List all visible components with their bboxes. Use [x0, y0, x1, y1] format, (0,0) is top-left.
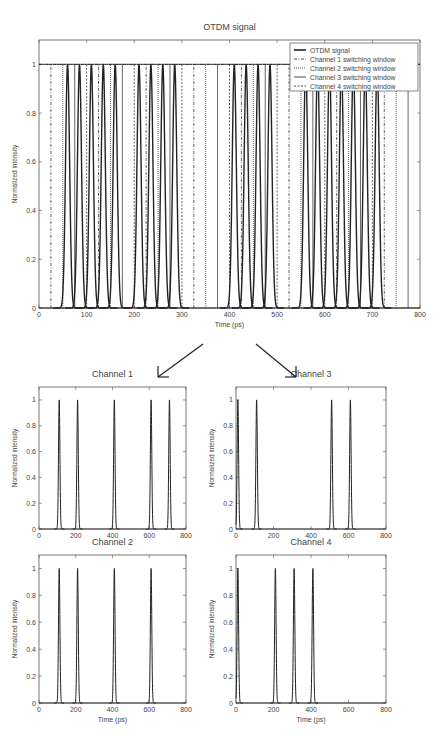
- x-tick-label: 200: [268, 532, 280, 539]
- y-tick-label: 0.6: [26, 158, 36, 165]
- y-tick-label: 0: [32, 700, 36, 707]
- legend-entry: Channel 2 switching window: [310, 65, 395, 73]
- y-tick-label: 0.6: [223, 619, 233, 626]
- y-tick-label: 0.4: [223, 474, 233, 481]
- legend-entry: Channel 3 switching window: [310, 74, 395, 82]
- y-tick-label: 0.2: [26, 500, 36, 507]
- chart-title: Channel 3: [290, 369, 331, 379]
- x-tick-label: 100: [81, 311, 93, 318]
- chart-title: Channel 2: [92, 537, 133, 547]
- y-tick-label: 0: [32, 305, 36, 312]
- y-tick-label: 0.8: [26, 422, 36, 429]
- arrow-to-channel-1: [158, 344, 203, 377]
- figure-canvas: OTDM signal010020030040050060070080000.2…: [0, 0, 436, 735]
- x-tick-label: 800: [414, 311, 426, 318]
- x-tick-label: 600: [143, 532, 155, 539]
- y-axis-label: Normalized intensity: [11, 599, 19, 658]
- x-axis-label: Time (ps): [296, 716, 325, 724]
- y-tick-label: 0.2: [223, 673, 233, 680]
- y-tick-label: 0.2: [26, 673, 36, 680]
- y-tick-label: 0: [229, 526, 233, 533]
- x-axis-label: Time (ps): [215, 321, 244, 329]
- y-tick-label: 0.4: [26, 207, 36, 214]
- plot-area: [39, 387, 186, 529]
- x-tick-label: 400: [107, 706, 119, 713]
- plot-area: [236, 387, 386, 529]
- y-tick-label: 1: [32, 61, 36, 68]
- x-tick-label: 200: [70, 706, 82, 713]
- y-tick-label: 0.6: [26, 619, 36, 626]
- y-tick-label: 0.8: [26, 592, 36, 599]
- x-tick-label: 800: [380, 706, 392, 713]
- y-tick-label: 0.6: [223, 448, 233, 455]
- chart-ch4: Channel 4020040060080000.20.40.60.81Time…: [208, 537, 392, 724]
- y-tick-label: 0.8: [26, 110, 36, 117]
- legend-entry: Channel 1 switching window: [310, 56, 395, 64]
- chart-main: OTDM signal010020030040050060070080000.2…: [11, 22, 426, 329]
- chart-ch3: Channel 3020040060080000.20.40.60.81Norm…: [208, 369, 392, 539]
- x-tick-label: 0: [37, 532, 41, 539]
- chart-title: Channel 4: [290, 537, 331, 547]
- y-tick-label: 0.4: [26, 646, 36, 653]
- x-tick-label: 0: [234, 706, 238, 713]
- x-tick-label: 400: [305, 706, 317, 713]
- y-tick-label: 0.6: [26, 448, 36, 455]
- y-tick-label: 0: [32, 526, 36, 533]
- y-tick-label: 0.4: [223, 646, 233, 653]
- y-tick-label: 0.4: [26, 474, 36, 481]
- y-tick-label: 0.8: [223, 422, 233, 429]
- x-tick-label: 200: [70, 532, 82, 539]
- chart-title: Channel 1: [92, 369, 133, 379]
- plot-area: [236, 555, 386, 703]
- y-tick-label: 1: [229, 565, 233, 572]
- x-tick-label: 600: [143, 706, 155, 713]
- x-tick-label: 600: [319, 311, 331, 318]
- x-tick-label: 200: [268, 706, 280, 713]
- legend: OTDM signalChannel 1 switching windowCha…: [290, 43, 418, 91]
- x-tick-label: 300: [176, 311, 188, 318]
- x-tick-label: 200: [128, 311, 140, 318]
- y-tick-label: 1: [32, 396, 36, 403]
- legend-entry: Channel 4 switching window: [310, 83, 395, 91]
- x-axis-label: Time (ps): [98, 716, 127, 724]
- x-tick-label: 0: [234, 532, 238, 539]
- y-axis-label: Normalized intensity: [208, 599, 216, 658]
- x-tick-label: 400: [224, 311, 236, 318]
- chart-ch1: Channel 1020040060080000.20.40.60.81Norm…: [11, 369, 192, 539]
- x-tick-label: 0: [37, 311, 41, 318]
- arrow-to-channel-3: [256, 344, 296, 377]
- chart-ch2: Channel 2020040060080000.20.40.60.81Time…: [11, 537, 192, 724]
- x-tick-label: 800: [180, 532, 192, 539]
- x-tick-label: 0: [37, 706, 41, 713]
- y-tick-label: 0.8: [223, 592, 233, 599]
- x-tick-label: 800: [180, 706, 192, 713]
- y-tick-label: 0.2: [26, 256, 36, 263]
- y-axis-label: Normalized intensity: [208, 428, 216, 487]
- plot-area: [39, 555, 186, 703]
- x-tick-label: 600: [343, 706, 355, 713]
- y-tick-label: 1: [229, 396, 233, 403]
- y-axis-label: Normalized intensity: [11, 428, 19, 487]
- x-tick-label: 500: [271, 311, 283, 318]
- x-tick-label: 600: [343, 532, 355, 539]
- legend-entry: OTDM signal: [310, 47, 350, 55]
- x-tick-label: 800: [380, 532, 392, 539]
- x-tick-label: 700: [367, 311, 379, 318]
- y-tick-label: 1: [32, 565, 36, 572]
- y-tick-label: 0: [229, 700, 233, 707]
- y-axis-label: Normalized intensity: [11, 144, 19, 203]
- chart-title: OTDM signal: [203, 22, 256, 32]
- y-tick-label: 0.2: [223, 500, 233, 507]
